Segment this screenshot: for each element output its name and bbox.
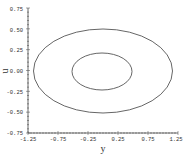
y-tick-label: -0.50: [6, 109, 23, 116]
x-tick-label: 0.25: [111, 136, 124, 143]
x-axis-title: y: [101, 143, 106, 154]
inner-orbit-curve: [72, 53, 132, 90]
y-axis-title: u: [0, 69, 10, 74]
y-tick-label: 0.75: [10, 6, 23, 13]
y-tick-label: 0.50: [10, 27, 23, 34]
x-tick-label: 1.25: [169, 136, 182, 143]
x-tick-label: -0.25: [80, 136, 97, 143]
phase-plot: 0.75 0.50 0.25 0.00 -0.25 -0.50 -0.75 -1…: [0, 0, 183, 159]
x-tick-label: -0.75: [50, 136, 67, 143]
y-tick-label: -0.25: [6, 89, 23, 96]
y-tick-label: 0.25: [10, 47, 23, 54]
x-tick-label: 0.75: [141, 136, 154, 143]
outer-orbit-curve: [34, 29, 173, 113]
x-tick-label: -1.25: [20, 136, 37, 143]
y-tick-label: 0.00: [10, 68, 23, 75]
